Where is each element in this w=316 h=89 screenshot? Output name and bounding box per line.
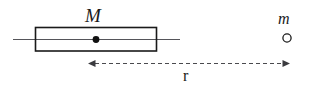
rod-mass-label: M: [85, 6, 101, 25]
distance-label: r: [183, 68, 188, 84]
arrowhead-right-icon: [283, 60, 291, 67]
diagram-canvas: [0, 0, 316, 89]
distance-dimension-arrow: [88, 60, 290, 67]
point-mass-circle: [283, 34, 291, 42]
arrowhead-left-icon: [88, 60, 96, 67]
physics-diagram-figure: M m r: [0, 0, 316, 89]
rod-center-of-mass-dot: [93, 36, 100, 43]
point-mass-label: m: [278, 11, 290, 27]
